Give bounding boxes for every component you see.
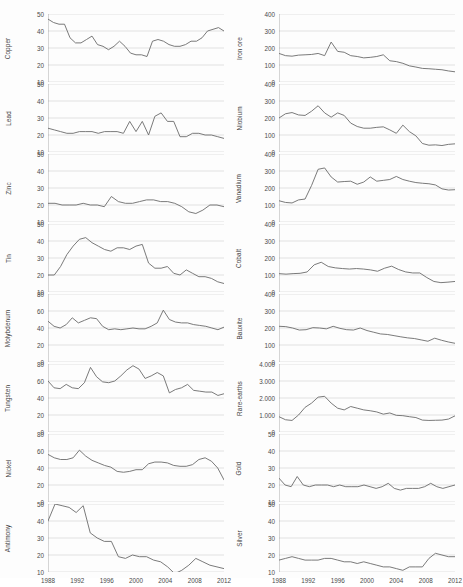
y-axis-ticks: 0100200300400 (245, 14, 277, 82)
y-axis-label-text: Rare-earths (236, 381, 243, 416)
x-axis-tick-label: 2004 (389, 577, 403, 584)
y-axis-tick-label: 40 (37, 395, 44, 402)
y-axis-tick-label: 50 (37, 221, 44, 228)
x-axis: 1988199219962000200420082012 (0, 574, 232, 587)
y-axis-tick-label: 4.000 (259, 361, 275, 368)
plot-area (48, 364, 224, 432)
y-axis-tick-label: 20 (37, 342, 44, 349)
panel-tin: Tin1020304050 (0, 224, 232, 292)
data-series-line (48, 310, 224, 330)
y-axis-label-text: Antimony (5, 524, 12, 551)
y-axis-ticks: 0100200300400 (245, 224, 277, 292)
x-axis-tick-label: 1996 (100, 577, 114, 584)
series-plot (48, 294, 224, 362)
y-axis-tick-label: 200 (264, 255, 275, 262)
y-axis-tick-label: 400 (264, 151, 275, 158)
y-axis-label-text: Gold (236, 461, 243, 475)
series-plot (48, 434, 224, 502)
panel-tungsten: Tungsten020406080 (0, 364, 232, 432)
panel-nickel: Nickel020406080 (0, 434, 232, 502)
y-axis-label-text: Iron ore (236, 37, 243, 60)
series-plot (279, 154, 455, 222)
series-plot (279, 364, 455, 432)
y-axis-tick-label: 300 (264, 28, 275, 35)
x-axis-tick-label: 1992 (70, 577, 84, 584)
y-axis-tick-label: 80 (37, 431, 44, 438)
y-axis-tick-label: 400 (264, 291, 275, 298)
data-series-line (279, 106, 455, 146)
y-axis-tick-label: 40 (268, 448, 275, 455)
y-axis-tick-label: 40 (37, 28, 44, 35)
data-series-line (279, 477, 455, 491)
panel-bauxite: Bauxite0100200300400 (231, 294, 463, 362)
y-axis-label-text: Cobalt (236, 248, 243, 267)
y-axis-tick-label: 60 (37, 308, 44, 315)
y-axis-tick-label: 300 (264, 238, 275, 245)
y-axis-ticks: 01.0002.0003.0004.000 (245, 364, 277, 432)
y-axis-tick-label: 2.000 (259, 395, 275, 402)
x-axis-tick-label: 1992 (301, 577, 315, 584)
plot-area (279, 434, 455, 502)
y-axis-ticks: 0100200300400 (245, 294, 277, 362)
y-axis-ticks: 1020304050 (14, 14, 46, 82)
y-axis-label-text: Nickel (5, 459, 12, 477)
y-axis-tick-label: 200 (264, 45, 275, 52)
panel-molybdenum: Molybdenum020406080 (0, 294, 232, 362)
data-series-line (48, 366, 224, 396)
y-axis-tick-label: 30 (268, 465, 275, 472)
x-axis-tick-label: 1988 (272, 577, 286, 584)
panel-gold: Gold1020304050 (231, 434, 463, 502)
series-plot (48, 364, 224, 432)
panel-iron-ore: Iron ore0100200300400 (231, 14, 463, 82)
panel-zinc: Zinc1020304050 (0, 154, 232, 222)
y-axis-tick-label: 40 (37, 325, 44, 332)
y-axis-tick-label: 100 (264, 202, 275, 209)
y-axis-tick-label: 50 (37, 151, 44, 158)
right-column: Iron ore0100200300400Niobium010020030040… (231, 0, 463, 578)
y-axis-ticks: 1020304050 (14, 154, 46, 222)
y-axis-tick-label: 300 (264, 98, 275, 105)
data-series-line (48, 238, 224, 284)
x-axis-tick-label: 2008 (419, 577, 433, 584)
plot-area (48, 14, 224, 82)
x-axis-tick-label: 2000 (129, 577, 143, 584)
y-axis-tick-label: 30 (37, 45, 44, 52)
y-axis-tick-label: 200 (264, 115, 275, 122)
plot-area (279, 504, 455, 572)
data-series-line (279, 553, 455, 570)
plot-area (279, 224, 455, 292)
series-plot (48, 84, 224, 152)
data-series-line (279, 262, 455, 282)
data-series-line (279, 326, 455, 343)
y-axis-tick-label: 20 (37, 202, 44, 209)
y-axis-tick-label: 30 (37, 185, 44, 192)
data-series-line (279, 396, 455, 420)
y-axis-tick-label: 100 (264, 132, 275, 139)
data-series-line (48, 19, 224, 56)
plot-area (48, 434, 224, 502)
series-plot (48, 224, 224, 292)
x-axis-tick-label: 2008 (188, 577, 202, 584)
x-axis: 1988199219962000200420082012 (231, 574, 463, 587)
y-axis-tick-label: 60 (37, 378, 44, 385)
data-series-line (48, 450, 224, 480)
y-axis-label-text: Lead (5, 111, 12, 126)
data-series-line (279, 42, 455, 72)
series-plot (48, 14, 224, 82)
plot-area (48, 84, 224, 152)
y-axis-tick-label: 200 (264, 325, 275, 332)
y-axis-label-text: Bauxite (236, 317, 243, 339)
y-axis-tick-label: 20 (37, 552, 44, 559)
y-axis-label-text: Tin (4, 254, 11, 263)
plot-area (48, 224, 224, 292)
plot-area (279, 154, 455, 222)
data-series-line (279, 168, 455, 203)
y-axis-ticks: 0100200300400 (245, 84, 277, 152)
x-axis-tick-label: 2000 (360, 577, 374, 584)
y-axis-label-text: Vanadium (236, 173, 243, 202)
x-axis-tick-label: 1996 (331, 577, 345, 584)
y-axis-tick-label: 30 (37, 115, 44, 122)
panel-niobium: Niobium0100200300400 (231, 84, 463, 152)
y-axis-ticks: 0100200300400 (245, 154, 277, 222)
plot-area (48, 504, 224, 572)
